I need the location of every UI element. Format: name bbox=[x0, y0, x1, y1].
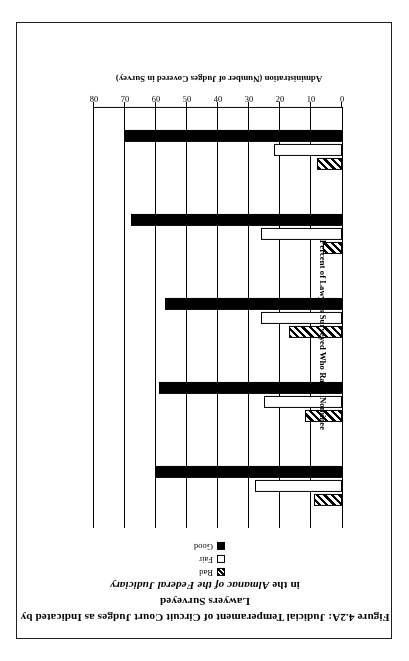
bar-good bbox=[159, 382, 342, 394]
axis-tick-label: 30 bbox=[234, 95, 264, 104]
bar-fair bbox=[255, 480, 342, 492]
bar-fair bbox=[261, 228, 342, 240]
chart-legend: Bad Fair Good bbox=[194, 541, 225, 578]
axis-tick-label: 70 bbox=[110, 95, 140, 104]
bar-group: Clinton (55) bbox=[94, 192, 342, 276]
bar-group: Bush II (7) bbox=[94, 108, 342, 192]
axis-tick-label: 80 bbox=[79, 95, 109, 104]
bar-fair bbox=[261, 312, 342, 324]
bar-fair bbox=[265, 396, 343, 408]
bar-bad bbox=[317, 158, 342, 170]
category-axis-title: Administration (Number of Judges Covered… bbox=[95, 74, 343, 84]
figure-title: Figure 4.2A: Judicial Temperament of Cir… bbox=[17, 577, 392, 626]
bar-group: Reagan (66) bbox=[94, 360, 342, 444]
axis-tick-label: 20 bbox=[265, 95, 295, 104]
legend-label-bad: Bad bbox=[199, 568, 213, 577]
bar-bad bbox=[289, 326, 342, 338]
axis-tick-label: 40 bbox=[203, 95, 233, 104]
figure-title-line1: Figure 4.2A: Judicial Temperament of Cir… bbox=[21, 596, 390, 624]
legend-label-good: Good bbox=[194, 542, 213, 551]
category-label: Bush II (7) bbox=[350, 146, 392, 156]
axis-tick-label: 10 bbox=[296, 95, 326, 104]
legend-item-good: Good bbox=[194, 541, 225, 552]
category-label: Bush I (36) bbox=[350, 314, 392, 324]
category-label: Carter (30) bbox=[350, 482, 392, 492]
axis-tick-label: 0 bbox=[327, 95, 357, 104]
legend-swatch-bad-icon bbox=[217, 569, 225, 577]
value-axis-title: Percent of Lawyers Surveyed Who Rated No… bbox=[318, 205, 328, 465]
legend-swatch-fair-icon bbox=[217, 556, 225, 564]
legend-item-bad: Bad bbox=[194, 567, 225, 578]
figure-title-line2-prefix: in the bbox=[269, 580, 300, 592]
bar-good bbox=[131, 214, 342, 226]
bar-good bbox=[165, 298, 342, 310]
rotated-figure-container: Figure 4.2A: Judicial Temperament of Cir… bbox=[17, 23, 392, 639]
legend-label-fair: Fair bbox=[199, 555, 213, 564]
category-label: Reagan (66) bbox=[350, 398, 392, 408]
category-label: Clinton (55) bbox=[350, 230, 392, 240]
bar-good bbox=[125, 130, 342, 142]
bar-good bbox=[156, 466, 342, 478]
legend-item-fair: Fair bbox=[194, 554, 225, 565]
axis-tick-label: 50 bbox=[172, 95, 202, 104]
bar-group: Bush I (36) bbox=[94, 276, 342, 360]
axis-tick-label: 60 bbox=[141, 95, 171, 104]
bar-bad bbox=[314, 494, 342, 506]
figure-page: Figure 4.2A: Judicial Temperament of Cir… bbox=[16, 22, 392, 639]
bar-group: Carter (30) bbox=[94, 444, 342, 528]
plot-area: 01020304050607080Carter (30)Reagan (66)B… bbox=[94, 107, 343, 528]
bar-fair bbox=[274, 144, 342, 156]
figure-title-line2-italic: Almanac of the Federal Judiciary bbox=[110, 580, 269, 592]
legend-swatch-good-icon bbox=[217, 543, 225, 551]
